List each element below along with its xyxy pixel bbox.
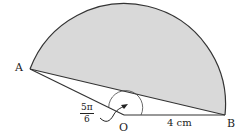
angle-numerator: 5π [80, 103, 94, 114]
angle-denominator: 6 [80, 114, 94, 124]
label-point-O: O [119, 122, 128, 133]
arrowhead-icon [121, 104, 128, 109]
diagram: A O B 4 cm 5π 6 [0, 0, 245, 137]
sector-figure [0, 0, 245, 137]
label-point-B: B [227, 118, 235, 129]
angle-label: 5π 6 [80, 103, 94, 124]
label-radius: 4 cm [167, 118, 192, 128]
label-point-A: A [15, 62, 23, 73]
shaded-segment [30, 4, 226, 115]
